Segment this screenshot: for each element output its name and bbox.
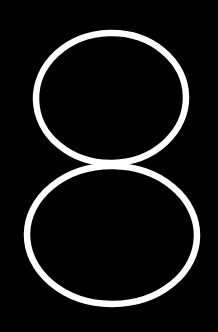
figure-eight-graphic [0, 0, 218, 332]
image-canvas: 8 [0, 0, 218, 332]
